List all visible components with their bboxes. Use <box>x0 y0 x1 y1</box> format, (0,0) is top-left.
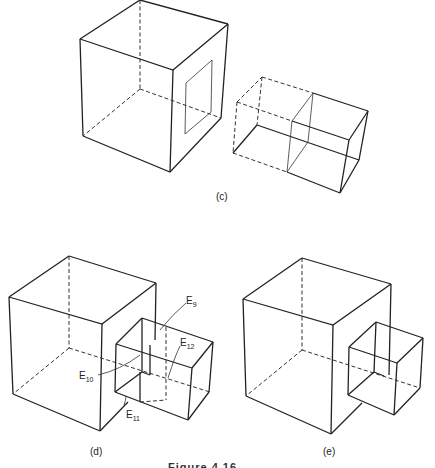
diagram-canvas <box>0 0 435 468</box>
panel-c-box <box>233 77 368 193</box>
edge-label-e11: E11 <box>126 409 140 422</box>
figure-caption: Figure 4.16 <box>168 461 237 468</box>
edge-label-e12: E12 <box>180 337 194 350</box>
panel-e-cube <box>243 258 420 434</box>
edge-label-e10: E10 <box>79 370 93 383</box>
panel-d-box <box>115 318 213 420</box>
edge-label-e9: E9 <box>186 295 197 308</box>
panel-d-label: (d) <box>90 446 102 457</box>
panel-e-label: (e) <box>323 446 335 457</box>
panel-c-cube <box>80 0 228 172</box>
panel-c-label: (c) <box>216 191 228 202</box>
